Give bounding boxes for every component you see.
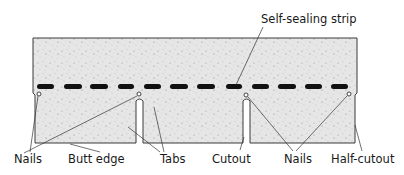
nail-icon xyxy=(244,93,248,97)
label-nails-right: Nails xyxy=(284,152,312,166)
nail-icon xyxy=(37,92,41,96)
label-tabs: Tabs xyxy=(159,152,185,166)
label-nails-left: Nails xyxy=(14,152,42,166)
nail-icon xyxy=(137,92,141,96)
shingle-diagram: Self-sealing strip Nails Butt edge Tabs … xyxy=(0,0,404,175)
label-self-sealing-strip: Self-sealing strip xyxy=(261,12,357,26)
label-cutout: Cutout xyxy=(212,152,251,166)
nail-icon xyxy=(347,92,351,96)
shingle-body xyxy=(33,38,357,143)
label-half-cutout: Half-cutout xyxy=(331,152,395,166)
label-butt-edge: Butt edge xyxy=(68,152,125,166)
